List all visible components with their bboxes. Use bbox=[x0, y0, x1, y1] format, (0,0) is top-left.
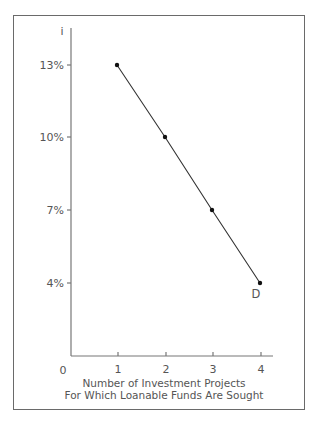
x-tick-label: 3 bbox=[210, 363, 217, 376]
curve-label-d: D bbox=[252, 287, 261, 301]
x-tick-label: 2 bbox=[163, 363, 170, 376]
y-tick-label: 13% bbox=[40, 59, 64, 72]
x-tick-label: 1 bbox=[115, 363, 122, 376]
x-axis-title-line1: Number of Investment Projects bbox=[82, 377, 245, 389]
origin-label: 0 bbox=[60, 364, 67, 377]
y-tick-label: 7% bbox=[47, 204, 64, 217]
x-tick-label: 4 bbox=[258, 363, 265, 376]
x-axis-title-line2: For Which Loanable Funds Are Sought bbox=[65, 389, 264, 401]
y-tick-label: 10% bbox=[40, 131, 64, 144]
y-axis-label: i bbox=[60, 25, 63, 38]
chart-svg: i 13% 10% 7% 4% 0 1 2 3 4 Number of Inve… bbox=[0, 0, 314, 424]
y-tick-label: 4% bbox=[47, 277, 64, 290]
demand-curve bbox=[117, 65, 260, 283]
